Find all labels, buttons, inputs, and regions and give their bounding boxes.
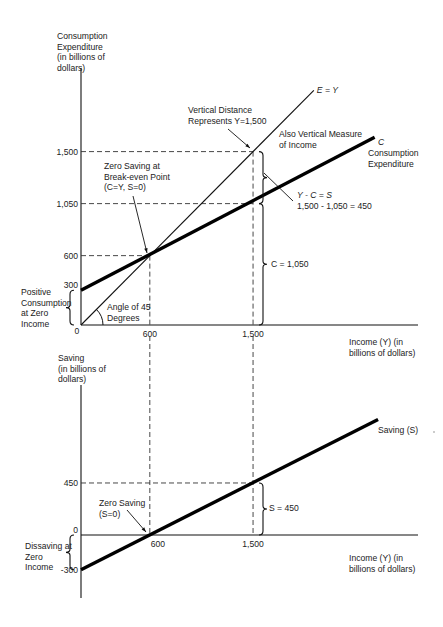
annotation-equation: 1,500 - 1,050 = 450 <box>297 201 372 211</box>
label-consumption-expenditure-line-1: Expenditure <box>368 159 414 169</box>
label-saving: Saving (S) <box>378 425 418 435</box>
y-axis-label-saving-line-1: (in billions of <box>58 364 106 374</box>
line-e-equals-y <box>81 90 314 325</box>
scan-speck <box>433 431 435 433</box>
pointer-y-minus-c <box>264 173 293 201</box>
annotation-also-vertical-measure-line-0: Also Vertical Measure <box>279 129 362 139</box>
arrow-break-even <box>133 196 147 253</box>
annotation-positive-consumption-line-3: Income <box>21 319 49 329</box>
annotation-angle-45-line-0: Angle of 45 <box>107 302 151 312</box>
consumption-saving-figure: ConsumptionExpenditure(in billions ofdol… <box>0 0 443 627</box>
annotation-dissaving-line-2: Income <box>25 562 53 572</box>
annotation-c-value: C = 1,050 <box>271 259 309 269</box>
y-axis-label-line-3: dollars) <box>57 63 85 73</box>
annotation-y-minus-c-equals-s: Y - C = S <box>297 190 332 200</box>
annotation-zero-saving-break-even-line-1: Break-even Point <box>104 172 171 182</box>
annotation-positive-consumption-line-1: Consumption <box>21 298 72 308</box>
y-axis-label-saving-line-2: dollars) <box>58 374 86 384</box>
saving-y-tick-label-0: 450 <box>64 478 79 488</box>
annotation-zero-saving-line-1: (S=0) <box>99 509 120 519</box>
x-axis-label-saving-line-1: billions of dollars) <box>349 564 416 574</box>
x-axis-label-line-1: billions of dollars) <box>349 348 416 358</box>
annotation-dissaving-line-1: Zero <box>25 552 43 562</box>
annotation-zero-saving-line-0: Zero Saving <box>99 498 146 508</box>
label-consumption-expenditure-line-0: Consumption <box>368 148 419 158</box>
saving-panel: Saving(in billions ofdollars)Income (Y) … <box>25 336 418 598</box>
saving-y-tick-label-1: 0 <box>73 525 78 535</box>
brace-s-value <box>259 483 267 535</box>
y-tick-label-3: 300 <box>64 280 79 290</box>
y-axis-label-line-0: Consumption <box>57 31 108 41</box>
annotation-positive-consumption-line-2: at Zero <box>21 308 48 318</box>
label-e-equals-y: E = Y <box>317 85 339 95</box>
consumption-panel: ConsumptionExpenditure(in billions ofdol… <box>21 31 419 358</box>
y-axis-label-line-1: Expenditure <box>57 42 103 52</box>
y-tick-label-0: 1,500 <box>56 147 78 157</box>
annotation-vertical-distance-line-1: Represents Y=1,500 <box>188 116 267 126</box>
annotation-vertical-distance-line-0: Vertical Distance <box>188 105 252 115</box>
x-axis-label-saving-line-0: Income (Y) (in <box>349 553 403 563</box>
arrow-break-even-head <box>144 248 147 253</box>
annotation-s-value: S = 450 <box>269 503 299 513</box>
annotation-positive-consumption-line-0: Positive <box>21 287 51 297</box>
y-tick-label-4: 0 <box>75 326 80 336</box>
y-tick-label-2: 600 <box>64 251 79 261</box>
annotation-zero-saving-break-even-line-2: (C=Y, S=0) <box>104 182 146 192</box>
brace-consumption <box>259 204 267 325</box>
annotation-also-vertical-measure-line-1: of Income <box>279 140 317 150</box>
saving-x-tick-label-0: 600 <box>151 539 166 549</box>
saving-x-tick-label-1: 1,500 <box>242 539 264 549</box>
label-c: C <box>378 137 385 147</box>
annotation-zero-saving-break-even-line-0: Zero Saving at <box>104 161 161 171</box>
y-tick-label-1: 1,050 <box>56 199 78 209</box>
line-saving <box>81 419 378 569</box>
angle-arc <box>97 310 104 326</box>
annotation-dissaving-line-0: Dissaving at <box>25 541 72 551</box>
x-axis-label-line-0: Income (Y) (in <box>349 337 403 347</box>
y-axis-label-line-2: (in billions of <box>57 52 105 62</box>
y-axis-label-saving-line-0: Saving <box>58 353 84 363</box>
annotation-angle-45-line-1: Degrees <box>107 313 139 323</box>
brace-positive-consumption <box>66 290 74 325</box>
